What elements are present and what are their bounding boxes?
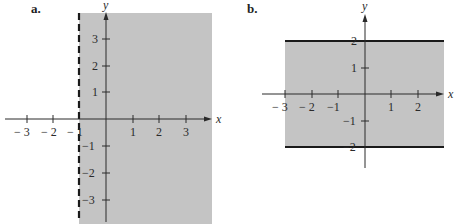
panel-b: b. x y − 3 − 2 −1 1 2 2 bbox=[247, 0, 454, 168]
panel-a: a. x y − 3 − 2 − 1 1 2 3 bbox=[5, 0, 222, 224]
y-tick-label: −1 bbox=[343, 114, 356, 128]
x-tick-label: − 1 bbox=[67, 125, 83, 139]
y-tick-label: 3 bbox=[92, 32, 98, 46]
y-tick-label: 1 bbox=[351, 61, 357, 75]
x-tick-label: 2 bbox=[415, 100, 421, 114]
x-tick-label: 1 bbox=[130, 125, 136, 139]
x-tick-label: 3 bbox=[183, 125, 189, 139]
x-tick-label: −1 bbox=[327, 100, 340, 114]
x-tick-label: − 2 bbox=[299, 100, 315, 114]
y-tick-label: −2 bbox=[343, 140, 356, 154]
x-tick-label: 1 bbox=[388, 100, 394, 114]
x-axis-label: x bbox=[215, 112, 222, 126]
y-tick-label: 2 bbox=[351, 34, 357, 48]
figure: a. x y − 3 − 2 − 1 1 2 3 bbox=[0, 0, 458, 224]
y-axis-label: y bbox=[102, 0, 109, 12]
y-tick-label: 2 bbox=[92, 59, 98, 73]
y-tick-label: −1 bbox=[82, 139, 95, 153]
y-axis-label: y bbox=[361, 0, 368, 13]
y-tick-label: −3 bbox=[82, 193, 95, 207]
x-axis-label: x bbox=[447, 87, 454, 101]
panel-b-label: b. bbox=[247, 1, 257, 16]
x-tick-label: − 2 bbox=[41, 125, 57, 139]
x-tick-label: − 3 bbox=[272, 100, 288, 114]
x-tick-label: 2 bbox=[156, 125, 162, 139]
y-axis-arrow-icon bbox=[363, 14, 368, 22]
y-tick-label: −2 bbox=[82, 166, 95, 180]
panel-a-label: a. bbox=[31, 1, 41, 16]
x-tick-label: − 3 bbox=[14, 125, 30, 139]
y-tick-label: 1 bbox=[92, 85, 98, 99]
